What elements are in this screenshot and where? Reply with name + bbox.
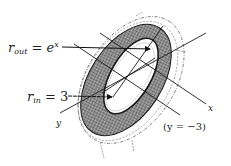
y-minus-3-label: (y = −3)	[163, 121, 206, 132]
svg-text:rout = ex: rout = ex	[8, 40, 59, 56]
x-axis-label: x	[208, 103, 213, 113]
svg-text:rin = 3: rin = 3	[27, 89, 68, 105]
r-out-label: rout = ex	[8, 40, 59, 56]
r-in-label: rin = 3	[27, 89, 68, 105]
annulus-diagram: rout = ex rin = 3 x y (y = −3)	[0, 0, 231, 166]
y-axis-label: y	[55, 118, 62, 128]
